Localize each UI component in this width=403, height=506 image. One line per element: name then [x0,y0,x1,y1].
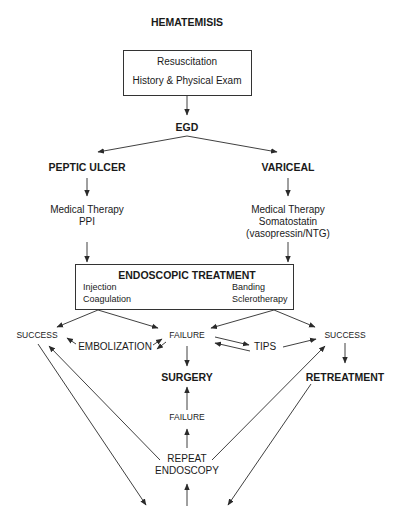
egd-node: EGD [176,122,199,133]
variceal-therapy-line3: (vasopressin/NTG) [246,229,330,239]
banding-label: Banding [232,283,265,292]
peptic-therapy-line1: Medical Therapy [50,205,124,215]
variceal-therapy-line2: Somatostatin [259,217,317,227]
repeat-endoscopy-line2: ENDOSCOPY [155,466,219,476]
variceal-node: VARICEAL [262,162,315,173]
repeat-endoscopy-line1: REPEAT [167,454,206,464]
tips-node: TIPS [254,342,276,352]
diagram-title: HEMATEMISIS [151,17,223,28]
surgery-node: SURGERY [161,372,213,383]
failure-node: FAILURE [169,331,204,340]
embolization-node: EMBOLIZATION [78,342,152,352]
retreatment-node: RETREATMENT [306,372,385,383]
success-left-node: SUCCESS [16,331,57,340]
peptic-ulcer-node: PEPTIC ULCER [48,162,125,173]
failure-second-node: FAILURE [169,413,204,422]
history-physical-label: History & Physical Exam [133,76,242,86]
injection-label: Injection [83,283,117,292]
success-right-node: SUCCESS [324,331,365,340]
coagulation-label: Coagulation [83,295,131,304]
endoscopic-treatment-title: ENDOSCOPIC TREATMENT [118,270,255,281]
sclerotherapy-label: Sclerotherapy [232,295,288,304]
variceal-therapy-line1: Medical Therapy [251,205,325,215]
resuscitation-label: Resuscitation [157,57,217,67]
peptic-therapy-line2: PPI [79,217,95,227]
